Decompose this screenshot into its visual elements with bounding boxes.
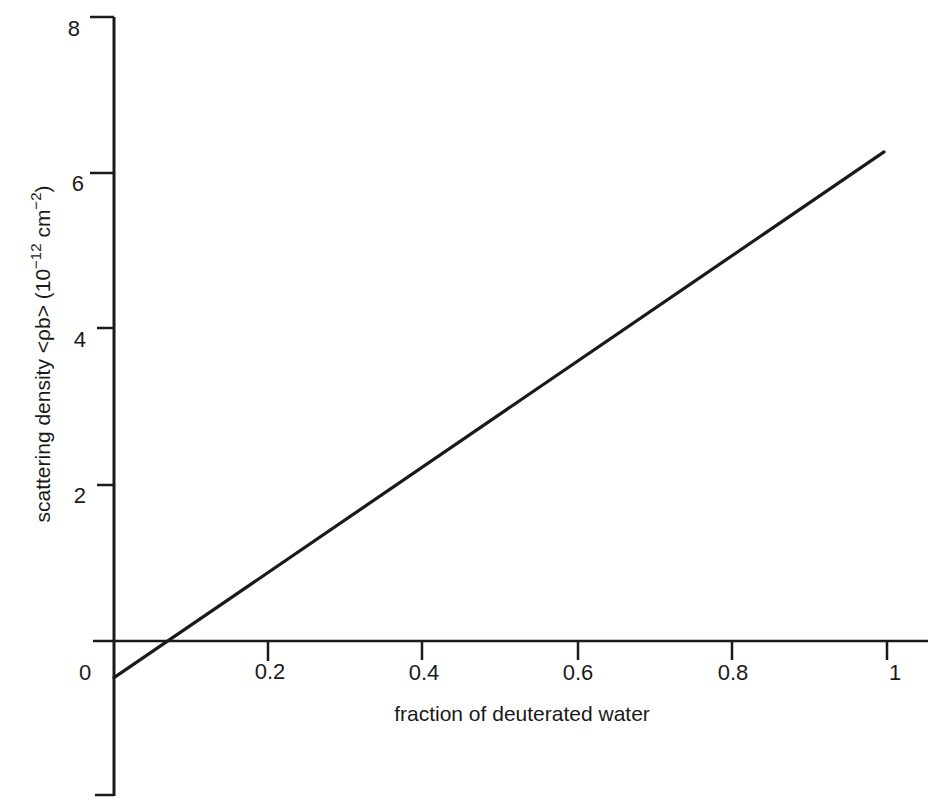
y-axis-title-exp2: −2 [27, 193, 44, 210]
y-axis-title-mid: cm [31, 210, 54, 244]
y-ticks [90, 17, 114, 795]
x-tick-label-1: 1 [889, 660, 901, 685]
x-ticks [268, 641, 887, 661]
x-tick-label-0.2: 0.2 [255, 659, 286, 684]
y-axis-title-main: scattering density <ρb> (10 [31, 269, 54, 523]
x-tick-label-0.8: 0.8 [718, 660, 749, 685]
y-axis-title: scattering density <ρb> (10−12 cm−2) [27, 186, 54, 523]
y-tick-label-6: 6 [72, 171, 84, 196]
x-axis-title: fraction of deuterated water [394, 702, 650, 725]
y-axis-title-exp1: −12 [27, 243, 44, 268]
scattering-density-chart: 8 6 4 2 0 0.2 0.4 0.6 0.8 1 fraction of … [0, 0, 939, 810]
x-tick-labels: 0 0.2 0.4 0.6 0.8 1 [79, 659, 901, 685]
y-tick-label-8: 8 [68, 16, 80, 41]
x-tick-label-0: 0 [79, 660, 91, 685]
x-tick-label-0.4: 0.4 [409, 660, 440, 685]
y-tick-labels: 8 6 4 2 [68, 16, 86, 508]
x-tick-label-0.6: 0.6 [563, 660, 594, 685]
data-line [114, 152, 884, 678]
y-tick-label-2: 2 [74, 483, 86, 508]
y-axis-title-end: ) [31, 186, 54, 193]
y-tick-label-4: 4 [74, 327, 86, 352]
